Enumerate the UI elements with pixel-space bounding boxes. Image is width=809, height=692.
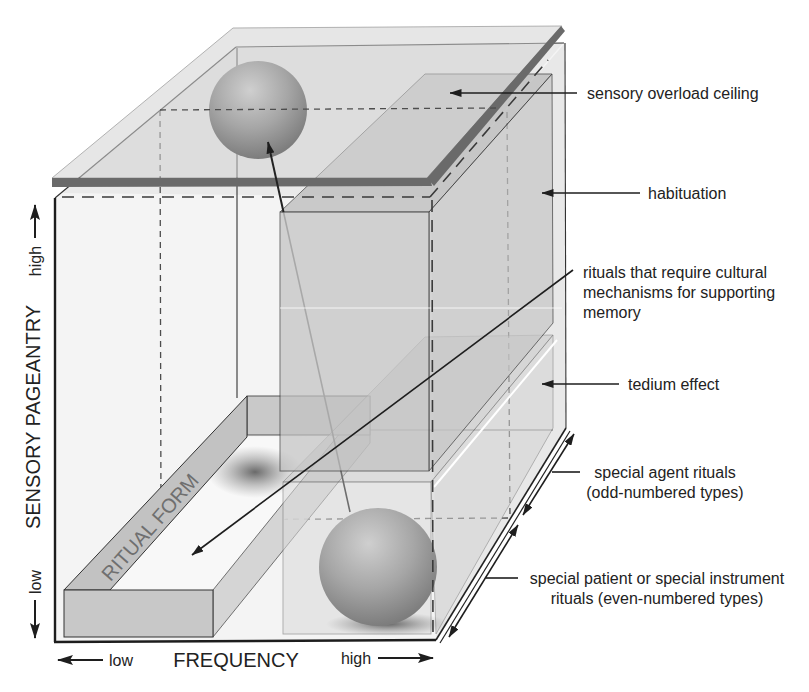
cultural-memory-label-line-1: rituals that require cultural — [583, 264, 767, 281]
habituation-label: habituation — [648, 185, 726, 202]
special-patient-label-line-1: special patient or special instrument — [530, 570, 785, 587]
special-agent-label-line-2: (odd-numbered types) — [586, 484, 743, 501]
x-axis-label: FREQUENCY — [173, 649, 299, 671]
column-front-face — [280, 212, 429, 471]
y-axis-low-label: low — [27, 570, 44, 594]
y-axis-high-label: high — [27, 246, 44, 276]
ceiling-label: sensory overload ceiling — [587, 85, 759, 102]
y-axis-label: SENSORY PAGEANTRY — [22, 305, 44, 529]
tedium-label: tedium effect — [628, 376, 720, 393]
ritual-form-hypothesis-diagram: RITUAL FORM — [0, 0, 809, 692]
x-axis-high-label: high — [341, 650, 371, 667]
cultural-memory-label-line-3: memory — [583, 304, 641, 321]
ceiling-front-edge — [52, 178, 432, 187]
cultural-memory-label-line-2: mechanisms for supporting — [583, 284, 775, 301]
special-agent-label-line-1: special agent rituals — [594, 464, 735, 481]
ritual-form-front-wall — [64, 590, 213, 637]
bottom-sphere — [319, 508, 437, 626]
x-axis-low-label: low — [109, 652, 133, 669]
top-sphere — [209, 61, 307, 159]
special-patient-label-line-2: rituals (even-numbered types) — [551, 590, 764, 607]
